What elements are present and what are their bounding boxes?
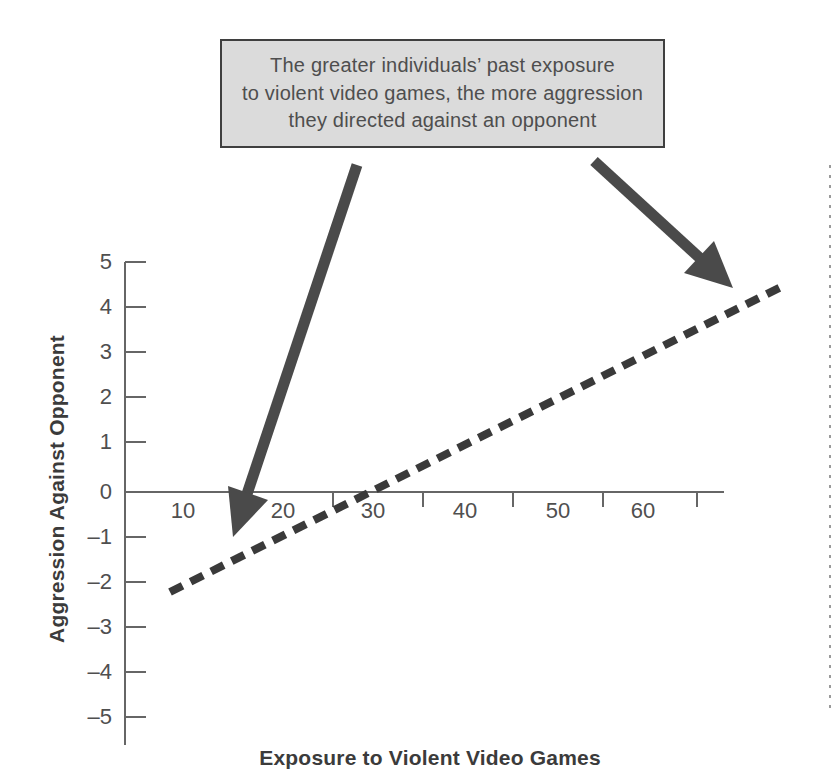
correlation-line-figure: The greater individuals’ past exposure t…: [0, 0, 832, 777]
left-annotation-arrow: [228, 165, 357, 537]
callout-line-1: The greater individuals’ past exposure: [270, 52, 615, 80]
x-tick-label-40: 40: [437, 498, 493, 524]
left-arrow-shaft: [247, 165, 357, 494]
x-tick-label-30: 30: [345, 498, 401, 524]
x-tick-label-20: 20: [255, 498, 311, 524]
y-tick-label-5: 5: [58, 249, 112, 275]
callout-line-3: they directed against an opponent: [289, 107, 597, 135]
right-annotation-arrow: [594, 161, 733, 288]
annotation-callout-box: The greater individuals’ past exposure t…: [220, 39, 665, 148]
x-tick-label-10: 10: [155, 498, 211, 524]
x-tick-label-50: 50: [530, 498, 586, 524]
callout-line-2: to violent video games, the more aggress…: [242, 80, 643, 108]
y-tick-label-neg5: –5: [58, 704, 112, 730]
y-tick-marks: [125, 262, 146, 717]
right-arrow-shaft: [594, 161, 702, 260]
x-tick-label-60: 60: [615, 498, 671, 524]
y-axis-title: Aggression Against Opponent: [45, 279, 69, 699]
x-axis-title: Exposure to Violent Video Games: [230, 746, 630, 770]
